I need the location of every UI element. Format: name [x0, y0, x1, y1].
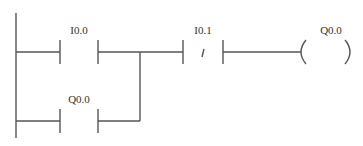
coil-label: Q0.0: [320, 24, 342, 36]
contact-i0-0: I0.0: [60, 24, 98, 64]
contact-label: I0.1: [194, 24, 211, 36]
negation-slash-icon: [202, 49, 204, 57]
contact-label: I0.0: [70, 24, 88, 36]
coil-q0-0: Q0.0: [301, 24, 350, 64]
contact-label: Q0.0: [68, 93, 90, 105]
ladder-diagram: I0.0 I0.1 Q0.0 Q0.0: [0, 0, 363, 146]
contact-i0-1-nc: I0.1: [183, 24, 223, 64]
contact-q0-0-branch: Q0.0: [60, 93, 98, 133]
